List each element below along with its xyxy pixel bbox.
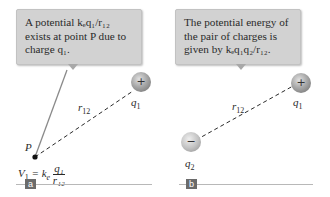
charge-q2-label: q2 — [185, 157, 195, 172]
point-p-label: P — [25, 141, 32, 153]
callout-line-3: given by kₑq₁q₂/r₁₂. — [184, 43, 292, 57]
callout-line-1: A potential kₑq₁/r₁₂ — [25, 16, 133, 30]
point-p-dot — [32, 154, 37, 159]
callout-line-3: charge q₁. — [25, 43, 133, 57]
panel-a: A potential kₑq₁/r₁₂ exists at point P d… — [0, 0, 165, 197]
charge-q1-label: q1 — [293, 96, 303, 111]
distance-r12-label: r12 — [78, 101, 90, 116]
callout-potential: A potential kₑq₁/r₁₂ exists at point P d… — [16, 9, 142, 65]
plus-icon: + — [131, 72, 151, 92]
charge-q2-negative: − — [181, 132, 201, 152]
charge-q1-label: q1 — [131, 96, 141, 111]
panel-b-rule — [179, 184, 313, 185]
distance-line-r12 — [196, 86, 293, 140]
panel-b: The potential energy of the pair of char… — [165, 0, 330, 197]
charge-q1-positive: + — [291, 73, 311, 93]
callout-line-2: the pair of charges is — [184, 30, 292, 44]
panel-b-tag: b — [186, 179, 197, 189]
plus-icon: + — [291, 73, 311, 93]
callout-potential-energy: The potential energy of the pair of char… — [175, 9, 301, 65]
panel-a-tag: a — [25, 179, 36, 189]
panel-a-rule — [16, 184, 152, 185]
callout-line-2: exists at point P due to — [25, 30, 133, 44]
pointer-line — [35, 70, 67, 157]
minus-icon: − — [181, 132, 201, 152]
callout-line-1: The potential energy of — [184, 16, 292, 30]
charge-q1-positive: + — [131, 72, 151, 92]
distance-r12-label: r12 — [232, 100, 244, 115]
